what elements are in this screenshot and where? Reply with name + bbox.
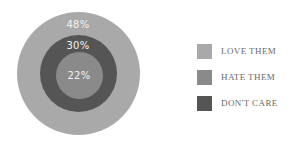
legend-swatch-hate-them	[197, 70, 212, 85]
inner-percent-label: 22%	[49, 70, 109, 81]
legend-label: DON'T CARE	[221, 98, 278, 108]
outer-percent-label: 48%	[48, 19, 108, 30]
legend-swatch-love-them	[197, 44, 212, 59]
legend-label: HATE THEM	[221, 72, 275, 82]
nested-circle-chart: 48% 30% 22%	[0, 0, 160, 147]
legend-item-love-them: LOVE THEM	[197, 44, 293, 59]
legend-item-hate-them: HATE THEM	[197, 70, 293, 85]
legend-item-dont-care: DON'T CARE	[197, 96, 293, 111]
middle-percent-label: 30%	[48, 40, 108, 51]
legend-swatch-dont-care	[197, 96, 212, 111]
legend-label: LOVE THEM	[221, 46, 276, 56]
